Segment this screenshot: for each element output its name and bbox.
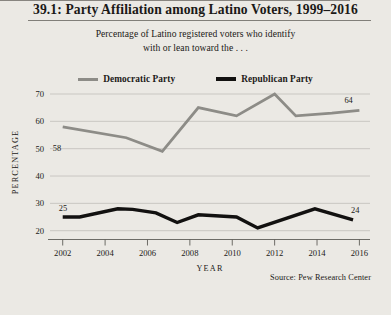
x-tick-label: 2012 — [266, 248, 283, 258]
source-note: Source: Pew Research Center — [270, 273, 371, 282]
data-label: 58 — [53, 144, 61, 153]
y-tick-label: 30 — [35, 198, 44, 208]
x-tick-label: 2004 — [97, 248, 115, 258]
x-tick-label: 2002 — [54, 248, 71, 258]
line-chart: 203040506070 200220042006200820102012201… — [0, 0, 391, 315]
y-tick-label: 60 — [35, 116, 44, 126]
y-axis-title: PERCENTAGE — [11, 130, 20, 195]
y-axis-tick-labels: 203040506070 — [35, 89, 44, 236]
y-tick-label: 20 — [35, 226, 44, 236]
x-tick-label: 2010 — [224, 248, 241, 258]
series-lines — [63, 94, 360, 228]
series-line-republican-party — [63, 209, 353, 228]
x-tick-label: 2016 — [351, 248, 369, 258]
y-tick-label: 40 — [35, 171, 44, 181]
series-line-democratic-party — [63, 94, 360, 151]
x-tick-label: 2006 — [139, 248, 157, 258]
x-axis-title: YEAR — [196, 264, 223, 273]
data-label: 25 — [59, 204, 67, 213]
y-tick-label: 70 — [35, 89, 44, 99]
y-tick-label: 50 — [35, 144, 44, 154]
figure-page: 39.1: Party Affiliation among Latino Vot… — [0, 0, 391, 315]
x-axis-tick-labels: 20022004200620082010201220142016 — [54, 248, 369, 258]
data-label: 24 — [351, 206, 360, 215]
x-tick-label: 2008 — [181, 248, 198, 258]
data-label: 64 — [344, 96, 353, 105]
x-tick-label: 2014 — [308, 248, 326, 258]
x-axis-line — [48, 240, 370, 246]
bottom-divider — [0, 0, 350, 1]
